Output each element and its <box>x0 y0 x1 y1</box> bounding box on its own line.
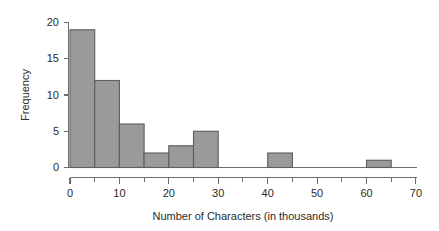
y-tick-label-10: 10 <box>47 89 59 101</box>
bar-bin-25-30 <box>194 131 219 167</box>
x-tick-label-50: 50 <box>311 187 323 199</box>
x-axis-title: Number of Characters (in thousands) <box>153 210 334 222</box>
x-tick-label-70: 70 <box>410 187 422 199</box>
y-tick-label-20: 20 <box>47 16 59 28</box>
x-tick-label-0: 0 <box>67 187 73 199</box>
x-tick-label-40: 40 <box>262 187 274 199</box>
bar-bin-5-10 <box>95 81 120 168</box>
y-tick-label-15: 15 <box>47 52 59 64</box>
x-tick-label-60: 60 <box>360 187 372 199</box>
y-tick-label-0: 0 <box>53 161 59 173</box>
bar-bin-20-25 <box>169 146 194 168</box>
y-axis-title: Frequency <box>19 69 31 121</box>
histogram-figure: Frequency 0 5 10 15 20 <box>0 0 439 231</box>
x-tick-label-10: 10 <box>113 187 125 199</box>
bar-bin-15-20 <box>144 153 169 168</box>
bar-bin-0-5 <box>70 30 95 168</box>
y-tick-label-5: 5 <box>53 125 59 137</box>
x-tick-label-30: 30 <box>212 187 224 199</box>
bar-bin-10-15 <box>119 124 144 168</box>
bar-bin-40-45 <box>268 153 293 168</box>
bar-bin-60-65 <box>367 160 392 167</box>
x-tick-label-20: 20 <box>163 187 175 199</box>
